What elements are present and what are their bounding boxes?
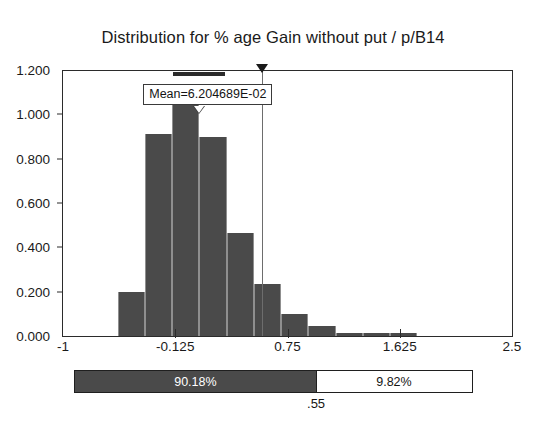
y-axis: 0.0000.2000.4000.6000.8001.0001.200 [0,70,58,337]
histogram-bar [363,333,390,336]
chart-title: Distribution for % age Gain without put … [0,28,546,47]
mean-callout-label: Mean=6.204689E-02 [143,84,272,105]
percent-right-label: 9.82% [376,375,411,389]
x-axis-tick-label: 0.75 [274,339,300,354]
histogram-bars [63,70,512,336]
percent-right-segment[interactable]: 9.82% [316,371,472,392]
y-axis-tick-label: 0.200 [16,284,50,299]
histogram-bar [308,326,335,336]
x-axis-tick-label: 2.5 [503,339,522,354]
x-axis-tick-label: -1 [57,339,69,354]
histogram-bar [390,333,417,336]
mean-pointer-icon [194,106,204,113]
percent-boundary-value: .55 [307,396,325,411]
histogram-bar [199,137,226,337]
percent-left-segment[interactable]: 90.18% [75,371,316,392]
y-axis-tick-label: 0.800 [16,151,50,166]
histogram-bar [227,233,254,336]
mean-bracket [173,72,225,76]
histogram-bar [281,314,308,336]
histogram-bar [145,134,172,336]
histogram-bar [336,333,363,336]
y-axis-tick-label: 0.600 [16,196,50,211]
chart-root: Distribution for % age Gain without put … [0,0,546,432]
histogram-bar [254,284,281,336]
percent-left-label: 90.18% [174,375,216,389]
plot-frame-right [512,70,513,337]
histogram-bar [118,292,145,336]
x-axis-tick [400,329,401,338]
y-axis-tick-label: 1.200 [16,63,50,78]
y-axis-tick-label: 1.000 [16,107,50,122]
percent-split-bar[interactable]: 90.18% 9.82% [74,370,473,393]
y-axis-tick-label: 0.400 [16,240,50,255]
histogram-bar [172,92,199,336]
plot-area: Mean=6.204689E-02 [62,70,513,337]
percent-divider-handle[interactable] [316,371,317,392]
x-axis-tick-label: 1.625 [383,339,417,354]
x-axis: -1-0.1250.751.6252.5 [62,338,513,360]
x-axis-tick [288,329,289,338]
x-axis-tick-label: -0.125 [156,339,194,354]
delimiter-marker-triangle-icon[interactable] [256,64,268,73]
x-axis-tick [175,329,176,338]
delimiter-line[interactable] [262,70,263,336]
y-axis-tick-label: 0.000 [16,329,50,344]
